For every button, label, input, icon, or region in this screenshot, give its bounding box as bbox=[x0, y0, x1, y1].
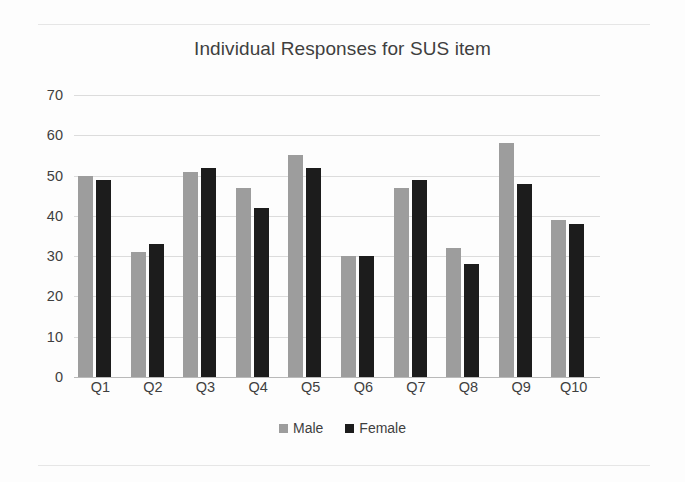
bar-series-layer bbox=[74, 95, 600, 377]
bar-male-q4[interactable] bbox=[236, 188, 251, 377]
legend-label: Male bbox=[293, 420, 323, 436]
bar-group[interactable] bbox=[179, 95, 232, 377]
x-axis-tick-label-q10: Q10 bbox=[547, 379, 600, 395]
bar-group[interactable] bbox=[495, 95, 548, 377]
gridline-0: 0 bbox=[74, 377, 600, 378]
bar-male-q1[interactable] bbox=[78, 176, 93, 377]
chart-title: Individual Responses for SUS item bbox=[0, 38, 685, 60]
bar-male-q2[interactable] bbox=[131, 252, 146, 377]
bar-female-q2[interactable] bbox=[149, 244, 164, 377]
bar-female-q3[interactable] bbox=[201, 168, 216, 377]
y-axis-tick-label: 50 bbox=[47, 168, 63, 184]
legend-label: Female bbox=[359, 420, 406, 436]
bar-male-q10[interactable] bbox=[551, 220, 566, 377]
bar-female-q6[interactable] bbox=[359, 256, 374, 377]
x-axis-tick-label-q9: Q9 bbox=[495, 379, 548, 395]
x-axis-tick-label-q7: Q7 bbox=[390, 379, 443, 395]
x-axis-tick-label-q6: Q6 bbox=[337, 379, 390, 395]
y-axis-tick-label: 60 bbox=[47, 127, 63, 143]
legend-item-female[interactable]: Female bbox=[345, 420, 406, 436]
bar-female-q7[interactable] bbox=[412, 180, 427, 377]
x-axis-tick-label-q5: Q5 bbox=[284, 379, 337, 395]
bar-group[interactable] bbox=[390, 95, 443, 377]
bar-group[interactable] bbox=[127, 95, 180, 377]
bar-male-q9[interactable] bbox=[499, 143, 514, 377]
x-axis-tick-label-q8: Q8 bbox=[442, 379, 495, 395]
legend-swatch-icon bbox=[279, 424, 288, 433]
bar-male-q7[interactable] bbox=[394, 188, 409, 377]
bar-female-q1[interactable] bbox=[96, 180, 111, 377]
plot-area: 010203040506070 Q1Q2Q3Q4Q5Q6Q7Q8Q9Q10 bbox=[74, 95, 600, 377]
bar-group[interactable] bbox=[547, 95, 600, 377]
x-axis-tick-label-q3: Q3 bbox=[179, 379, 232, 395]
y-axis-tick-label: 10 bbox=[47, 329, 63, 345]
bar-male-q8[interactable] bbox=[446, 248, 461, 377]
bar-male-q5[interactable] bbox=[288, 155, 303, 377]
scan-artifact-line-bottom bbox=[38, 465, 650, 466]
bar-group[interactable] bbox=[74, 95, 127, 377]
legend-item-male[interactable]: Male bbox=[279, 420, 323, 436]
y-axis-tick-label: 20 bbox=[47, 288, 63, 304]
y-axis-tick-label: 0 bbox=[55, 369, 63, 385]
bar-female-q4[interactable] bbox=[254, 208, 269, 377]
bar-group[interactable] bbox=[442, 95, 495, 377]
x-axis-tick-label-q4: Q4 bbox=[232, 379, 285, 395]
y-axis-tick-label: 40 bbox=[47, 208, 63, 224]
bar-group[interactable] bbox=[284, 95, 337, 377]
legend-swatch-icon bbox=[345, 424, 354, 433]
y-axis-tick-label: 70 bbox=[47, 87, 63, 103]
scan-artifact-line-top bbox=[38, 24, 650, 25]
bar-group[interactable] bbox=[337, 95, 390, 377]
bar-male-q3[interactable] bbox=[183, 172, 198, 377]
x-axis-tick-label-q1: Q1 bbox=[74, 379, 127, 395]
bar-female-q9[interactable] bbox=[517, 184, 532, 377]
bar-female-q10[interactable] bbox=[569, 224, 584, 377]
x-axis-tick-label-q2: Q2 bbox=[127, 379, 180, 395]
bar-female-q5[interactable] bbox=[306, 168, 321, 377]
bar-group[interactable] bbox=[232, 95, 285, 377]
chart-container: Individual Responses for SUS item 010203… bbox=[0, 0, 685, 482]
bar-male-q6[interactable] bbox=[341, 256, 356, 377]
bar-female-q8[interactable] bbox=[464, 264, 479, 377]
chart-legend: MaleFemale bbox=[0, 420, 685, 436]
y-axis-tick-label: 30 bbox=[47, 248, 63, 264]
